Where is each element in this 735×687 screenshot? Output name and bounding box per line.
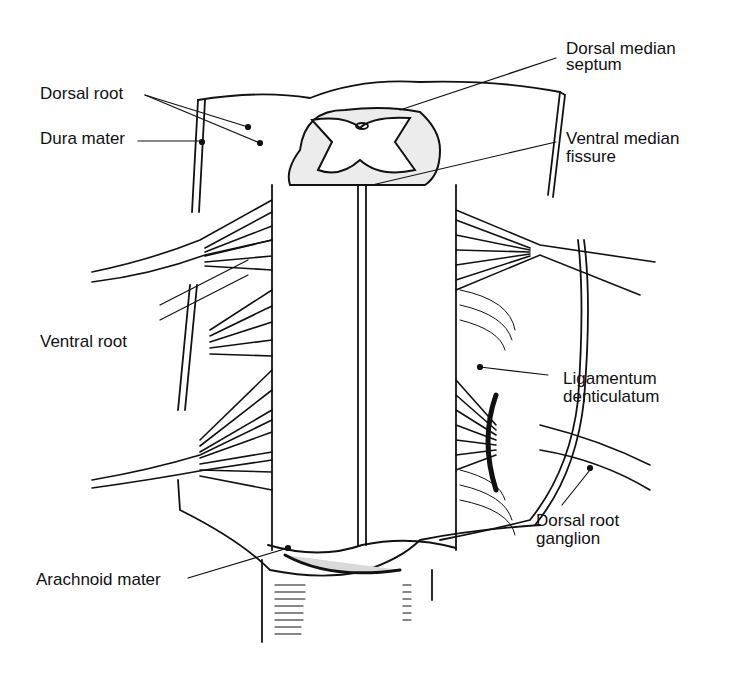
label-arachnoid-mater: Arachnoid mater [36, 571, 161, 588]
cord-cross-section [289, 108, 440, 185]
label-dorsal-root-ganglion-line1: Dorsal root [536, 512, 619, 529]
label-ventral-root: Ventral root [40, 333, 127, 350]
ligamentum-denticulatum [460, 290, 515, 535]
label-dorsal-root: Dorsal root [40, 85, 123, 102]
label-dorsal-root-ganglion-line2: ganglion [536, 530, 600, 547]
label-dura-mater: Dura mater [40, 130, 125, 147]
label-ventral-median-fissure-line1: Ventral median [566, 130, 679, 147]
label-ligamentum-line2: denticulatum [563, 388, 659, 405]
label-dorsal-median-septum-line2: septum [566, 56, 622, 73]
label-ligamentum-line1: Ligamentum [563, 370, 657, 387]
label-ventral-median-fissure-line2: fissure [566, 148, 616, 165]
cord-body [268, 185, 456, 573]
